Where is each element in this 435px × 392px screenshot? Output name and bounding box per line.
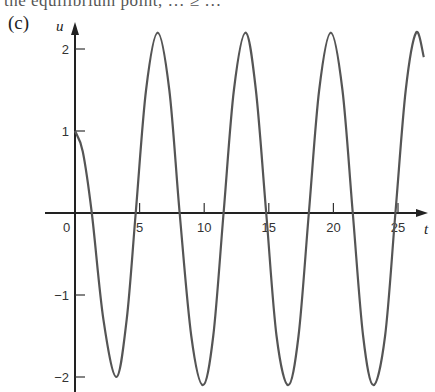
y-tick-label: −1	[54, 288, 69, 303]
y-tick-label: 2	[62, 42, 69, 57]
x-tick-label: 10	[197, 220, 211, 235]
y-axis-label: u	[56, 18, 64, 34]
x-tick-label: 5	[136, 220, 143, 235]
y-tick-label: 1	[62, 124, 69, 139]
y-axis-arrow-icon	[71, 22, 79, 35]
x-tick-label: 0	[63, 220, 70, 235]
series-line-u	[75, 32, 424, 385]
x-tick-label: 20	[326, 220, 340, 235]
x-axis-label: t	[424, 221, 429, 237]
data-series	[75, 32, 424, 385]
x-axis-arrow-icon	[416, 209, 428, 217]
y-tick-label: −2	[54, 370, 69, 385]
line-chart: tu 0510152025−2−112	[0, 0, 435, 392]
